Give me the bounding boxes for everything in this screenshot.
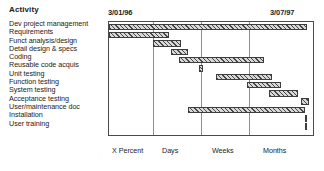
x-axis-caption: Months [263,146,286,155]
gantt-row [109,23,313,31]
gantt-bar[interactable] [269,90,298,96]
gantt-row [109,115,313,123]
gantt-bars [109,22,313,135]
gantt-bar[interactable] [305,123,307,131]
gantt-bar[interactable] [109,32,169,38]
gantt-row [109,106,313,114]
gantt-bar[interactable] [153,40,182,46]
gantt-bar[interactable] [247,82,282,88]
gantt-row [109,32,313,40]
x-axis-caption: Days [162,146,178,155]
gantt-row [109,48,313,56]
gantt-row [109,98,313,106]
gantt-row [109,81,313,89]
gantt-bar[interactable] [305,115,307,123]
gantt-row [109,56,313,64]
gantt-row [109,40,313,48]
gantt-row [109,123,313,131]
gantt-chart-page: Activity 3/01/96 3/07/97 Dev project man… [0,0,324,171]
gantt-bar[interactable] [171,49,187,55]
gantt-bar[interactable] [216,74,272,80]
gantt-bar[interactable] [179,57,264,63]
timeline-end-date: 3/07/97 [270,8,294,17]
activity-label: User training [9,120,109,128]
x-axis-caption: Weeks [212,146,234,155]
x-axis-caption: X Percent [112,146,143,155]
gantt-row [109,65,313,73]
gantt-row [109,73,313,81]
gantt-plot-area [108,21,314,136]
gantt-row [109,90,313,98]
timeline-start-date: 3/01/96 [108,8,132,17]
activity-label-column: Dev project managementRequirementsFunct … [9,20,109,128]
gantt-bar[interactable] [301,98,309,104]
gantt-bar[interactable] [188,107,305,113]
activity-column-header: Activity [9,5,39,14]
gantt-bar[interactable] [199,65,203,73]
gantt-bar[interactable] [109,24,307,30]
x-axis-captions: X PercentDaysWeeksMonths [108,146,314,160]
